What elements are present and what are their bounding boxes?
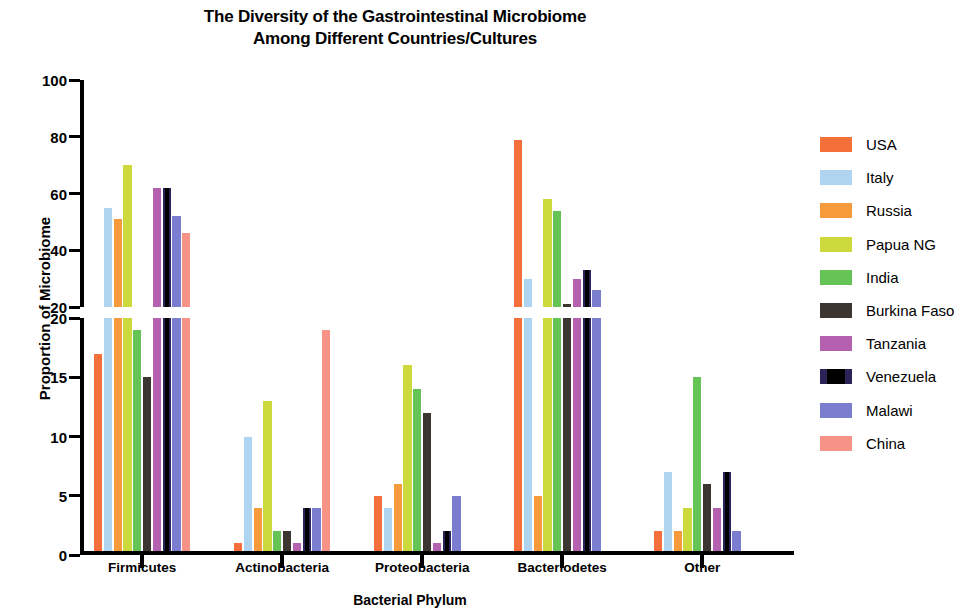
bar: [703, 484, 711, 555]
legend-label: China: [866, 435, 905, 452]
lower-plot-area: [80, 318, 780, 555]
y-axis-tick: [69, 494, 80, 497]
legend-label: Italy: [866, 169, 894, 186]
legend-swatch-icon: [820, 336, 852, 351]
bar: [263, 401, 271, 555]
bar: [163, 318, 171, 555]
bar: [423, 413, 431, 555]
upper-plot-area: [80, 80, 780, 307]
chart-figure: The Diversity of the Gastrointestinal Mi…: [0, 0, 958, 616]
upper-panel: 20406080100: [80, 80, 780, 307]
legend-swatch-icon: [820, 270, 852, 285]
y-axis-tick-label: 100: [42, 72, 67, 89]
legend-label: Venezuela: [866, 368, 936, 385]
y-axis-tick: [69, 135, 80, 138]
legend-label: Burkina Faso: [866, 302, 954, 319]
legend-item-tanzania[interactable]: Tanzania: [820, 327, 954, 360]
bar: [374, 496, 382, 555]
legend-swatch-icon: [820, 369, 852, 384]
bar: [723, 472, 731, 555]
legend-label: India: [866, 269, 899, 286]
bar: [312, 508, 320, 555]
legend-item-italy[interactable]: Italy: [820, 161, 954, 194]
legend-label: Malawi: [866, 402, 913, 419]
x-axis-category-label: Firmicutes: [108, 560, 176, 575]
bar: [514, 140, 522, 307]
legend-item-papua-ng[interactable]: Papua NG: [820, 228, 954, 261]
legend-item-burkina-faso[interactable]: Burkina Faso: [820, 294, 954, 327]
bar: [403, 365, 411, 555]
legend-swatch-icon: [820, 237, 852, 252]
legend-swatch-icon: [820, 436, 852, 451]
bar: [553, 318, 561, 555]
y-axis-tick: [69, 554, 80, 557]
x-axis-category-label: Actinobacteria: [235, 560, 329, 575]
bar: [592, 318, 600, 555]
y-axis-tick: [69, 376, 80, 379]
x-axis-category-label: Other: [684, 560, 720, 575]
bar: [182, 233, 190, 307]
bar: [163, 188, 171, 307]
legend-label: Tanzania: [866, 335, 926, 352]
legend-label: Russia: [866, 202, 912, 219]
bar: [413, 389, 421, 555]
x-axis-spine: [80, 551, 794, 555]
legend-item-venezuela[interactable]: Venezuela: [820, 360, 954, 393]
bar: [303, 508, 311, 555]
legend-item-malawi[interactable]: Malawi: [820, 394, 954, 427]
bar: [172, 216, 180, 307]
legend-item-usa[interactable]: USA: [820, 128, 954, 161]
y-axis-tick: [69, 317, 80, 320]
legend-item-india[interactable]: India: [820, 261, 954, 294]
bar: [114, 219, 122, 307]
y-axis-tick-label: 40: [50, 242, 67, 259]
bar: [104, 208, 112, 307]
bar: [133, 330, 141, 555]
bar: [664, 472, 672, 555]
bar: [104, 318, 112, 555]
bar: [573, 318, 581, 555]
bar: [172, 318, 180, 555]
bar: [153, 188, 161, 307]
y-axis-tick: [69, 79, 80, 82]
y-axis-tick-label: 10: [50, 428, 67, 445]
legend-item-china[interactable]: China: [820, 427, 954, 460]
bar: [524, 318, 532, 555]
legend-swatch-icon: [820, 403, 852, 418]
lower-panel: 05101520: [80, 318, 780, 555]
bar: [553, 211, 561, 307]
legend-item-russia[interactable]: Russia: [820, 194, 954, 227]
bar: [583, 318, 591, 555]
bar: [543, 318, 551, 555]
y-axis-tick-label: 5: [59, 487, 67, 504]
y-axis-tick-label: 15: [50, 369, 67, 386]
y-axis-tick-label: 60: [50, 185, 67, 202]
lower-y-axis-spine: [80, 318, 84, 555]
y-axis-tick: [69, 435, 80, 438]
chart-legend: USAItalyRussiaPapua NGIndiaBurkina FasoT…: [820, 128, 954, 460]
chart-title-line2: Among Different Countries/Cultures: [0, 28, 790, 50]
legend-label: Papua NG: [866, 236, 936, 253]
bar: [693, 377, 701, 555]
y-axis-tick-label: 80: [50, 128, 67, 145]
bar: [114, 318, 122, 555]
bar: [534, 496, 542, 555]
legend-label: USA: [866, 136, 897, 153]
bar: [563, 304, 571, 307]
bar: [322, 330, 330, 555]
y-axis-tick-label: 20: [50, 310, 67, 327]
chart-title-line1: The Diversity of the Gastrointestinal Mi…: [204, 7, 586, 26]
x-axis-category-label: Bacteriodetes: [518, 560, 607, 575]
upper-y-axis-spine: [80, 80, 84, 307]
bar: [123, 165, 131, 307]
bar: [94, 354, 102, 555]
legend-swatch-icon: [820, 170, 852, 185]
bar: [244, 437, 252, 556]
chart-title: The Diversity of the Gastrointestinal Mi…: [0, 6, 790, 50]
bar: [384, 508, 392, 555]
bar: [573, 279, 581, 307]
legend-swatch-icon: [820, 203, 852, 218]
bar: [514, 318, 522, 555]
bar: [123, 318, 131, 555]
bar: [543, 199, 551, 307]
